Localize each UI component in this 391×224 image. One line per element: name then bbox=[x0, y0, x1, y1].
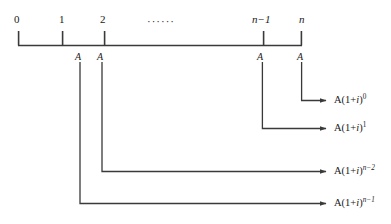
formula-period-1: A(1+i)n−1 bbox=[334, 198, 375, 209]
tick-label-1: 1 bbox=[59, 14, 65, 25]
tick-label-n-minus-1: n−1 bbox=[252, 14, 270, 25]
formula-n-minus-1-exponent: 1 bbox=[363, 121, 367, 129]
formula-n-minus-1: A(1+i)1 bbox=[334, 123, 366, 134]
flow-path-n bbox=[302, 62, 326, 101]
formula-n-base: A(1+ bbox=[334, 94, 356, 105]
formula-n: A(1+i)0 bbox=[334, 95, 366, 106]
payment-label-2: A bbox=[97, 52, 103, 62]
tick-label-0: 0 bbox=[14, 14, 20, 25]
formula-n-exponent: 0 bbox=[363, 93, 367, 101]
formula-period-1-exponent: n−1 bbox=[363, 196, 375, 204]
formula-period-2: A(1+i)n−2 bbox=[334, 166, 375, 177]
timeline-axis bbox=[18, 31, 302, 46]
tick-label-2: 2 bbox=[100, 14, 106, 25]
flow-path-1 bbox=[80, 62, 326, 204]
payment-label-n-minus-1: A bbox=[257, 52, 263, 62]
ellipsis-dots: ······ bbox=[147, 16, 175, 27]
diagram-canvas bbox=[0, 0, 391, 224]
formula-n-minus-1-base: A(1+ bbox=[334, 122, 356, 133]
flow-path-2 bbox=[102, 62, 326, 172]
cash-flow-diagram: 0 1 2 n−1 n ······ A A A A A(1+i)0 A(1+i… bbox=[0, 0, 391, 224]
payment-label-1: A bbox=[75, 52, 81, 62]
formula-period-1-base: A(1+ bbox=[334, 197, 356, 208]
tick-label-n: n bbox=[299, 14, 305, 25]
flow-path-n-minus-1 bbox=[262, 62, 326, 129]
formula-period-2-exponent: n−2 bbox=[363, 164, 375, 172]
formula-period-2-base: A(1+ bbox=[334, 165, 356, 176]
payment-label-n: A bbox=[297, 52, 303, 62]
